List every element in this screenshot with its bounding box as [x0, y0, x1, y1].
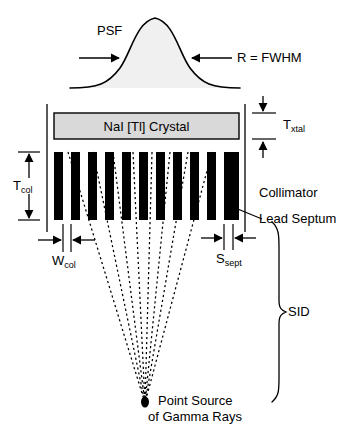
psf-curve-group [70, 18, 240, 88]
septum-bar [190, 152, 199, 220]
point-source-label-line2: of Gamma Rays [148, 410, 242, 423]
ssept-label: Ssept [216, 252, 242, 265]
fwhm-symbol: R [237, 50, 246, 65]
txtal-subscript: xtal [291, 124, 305, 134]
ssept-symbol: S [216, 251, 225, 266]
psf-curve-fill [70, 18, 240, 88]
septum-bar [54, 152, 63, 220]
txtal-dimension-group [252, 96, 276, 158]
point-source-dot [141, 397, 149, 408]
tcol-subscript: col [21, 185, 33, 195]
point-source-label-line1: Point Source [158, 394, 232, 407]
septum-bar [122, 152, 131, 220]
figure-canvas: PSF R = FWHM NaI [Tl] Crystal Txtal Tcol… [0, 0, 348, 429]
tcol-symbol: T [13, 178, 21, 193]
collimator-label: Collimator [259, 186, 318, 199]
ssept-dimension-group [201, 224, 256, 250]
fwhm-equals-text: = FWHM [246, 50, 301, 65]
ssept-subscript: sept [225, 258, 242, 268]
tcol-label: Tcol [13, 179, 32, 192]
wcol-subscript: col [64, 260, 76, 270]
collimator-septa-group [54, 152, 239, 220]
sid-brace [272, 222, 286, 402]
septum-bar [231, 152, 239, 220]
septum-bar [207, 152, 216, 220]
nai-crystal-label: NaI [Tl] Crystal [54, 119, 239, 134]
gamma-ray [93, 152, 145, 403]
septum-bar [156, 152, 165, 220]
lead-septum-label: Lead Septum [259, 212, 336, 225]
wcol-symbol: W [52, 253, 64, 268]
septum-bar [105, 152, 114, 220]
psf-label: PSF [97, 24, 122, 37]
septum-bar [173, 152, 182, 220]
txtal-symbol: T [283, 117, 291, 132]
sid-label: SID [288, 305, 310, 318]
txtal-label: Txtal [283, 118, 305, 131]
wcol-label: Wcol [52, 254, 76, 267]
fwhm-label: R = FWHM [237, 51, 302, 64]
septum-bar [139, 152, 148, 220]
